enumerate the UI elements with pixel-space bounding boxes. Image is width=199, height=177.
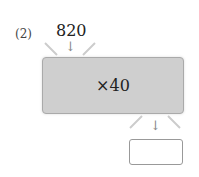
arrow-down-icon: ↓ <box>150 119 161 132</box>
input-number: 820 <box>56 21 87 40</box>
input-rays-icon <box>40 40 100 58</box>
operation-label: ×40 <box>96 76 130 95</box>
function-machine: ×40 <box>42 57 184 114</box>
problem-label: (2) <box>15 27 32 41</box>
answer-box[interactable] <box>129 139 183 165</box>
